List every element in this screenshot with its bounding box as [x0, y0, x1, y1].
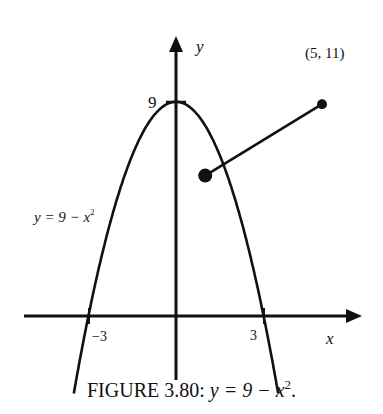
curve-label-sup: 2	[90, 207, 95, 217]
figure-canvas: y x 9 −3 3 (5, 11) y = 9 − x2	[0, 0, 383, 414]
y-tick-label-9: 9	[148, 93, 157, 112]
figure-caption: FIGURE 3.80: y = 9 − x2.	[0, 377, 383, 402]
caption-suffix: .	[291, 379, 296, 401]
x-tick-label-3: 3	[250, 328, 257, 343]
x-axis-label: x	[325, 329, 334, 348]
point-dot-start	[198, 169, 212, 183]
caption-math: y = 9 − x	[210, 379, 285, 401]
curve-label-text: y = 9 − x	[32, 209, 90, 225]
y-axis-arrow-icon	[169, 36, 183, 52]
x-axis-arrow-icon	[346, 309, 362, 323]
x-tick-label-neg3: −3	[92, 329, 107, 344]
point-dot-end	[317, 99, 327, 109]
line-segment	[205, 104, 322, 175]
point-label: (5, 11)	[305, 45, 344, 62]
y-axis-label: y	[194, 37, 204, 56]
curve-label: y = 9 − x2	[32, 207, 95, 225]
caption-prefix: FIGURE 3.80:	[87, 379, 210, 401]
